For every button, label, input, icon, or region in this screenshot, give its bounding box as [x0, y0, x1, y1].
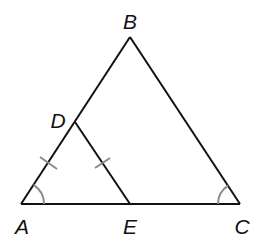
diagram-svg: [0, 0, 269, 245]
angle-arc-a: [34, 185, 44, 204]
tick-mark-de: [95, 158, 110, 168]
segment-bc: [130, 37, 240, 204]
tick-mark-ad: [40, 157, 57, 169]
angle-arc-c: [218, 186, 228, 204]
vertex-label-a: A: [15, 216, 29, 237]
vertex-label-d: D: [50, 110, 65, 131]
vertex-label-c: C: [234, 216, 249, 237]
vertex-label-e: E: [123, 216, 137, 237]
vertex-label-b: B: [123, 11, 137, 32]
triangle-diagram: B D A E C: [0, 0, 269, 245]
